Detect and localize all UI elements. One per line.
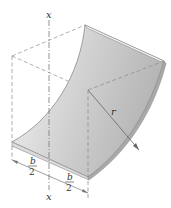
half-width-left-numerator: b — [30, 156, 36, 166]
half-width-left-denominator: 2 — [29, 167, 35, 177]
shell-diagram: x x r b 2 b 2 — [0, 0, 171, 208]
dim-arrow-right — [82, 189, 88, 193]
dim-arrow-left — [12, 160, 18, 164]
half-width-right-numerator: b — [67, 172, 73, 182]
half-width-right-denominator: 2 — [66, 183, 72, 193]
axis-label-top: x — [46, 9, 52, 20]
axis-label-bottom: x — [46, 191, 52, 202]
